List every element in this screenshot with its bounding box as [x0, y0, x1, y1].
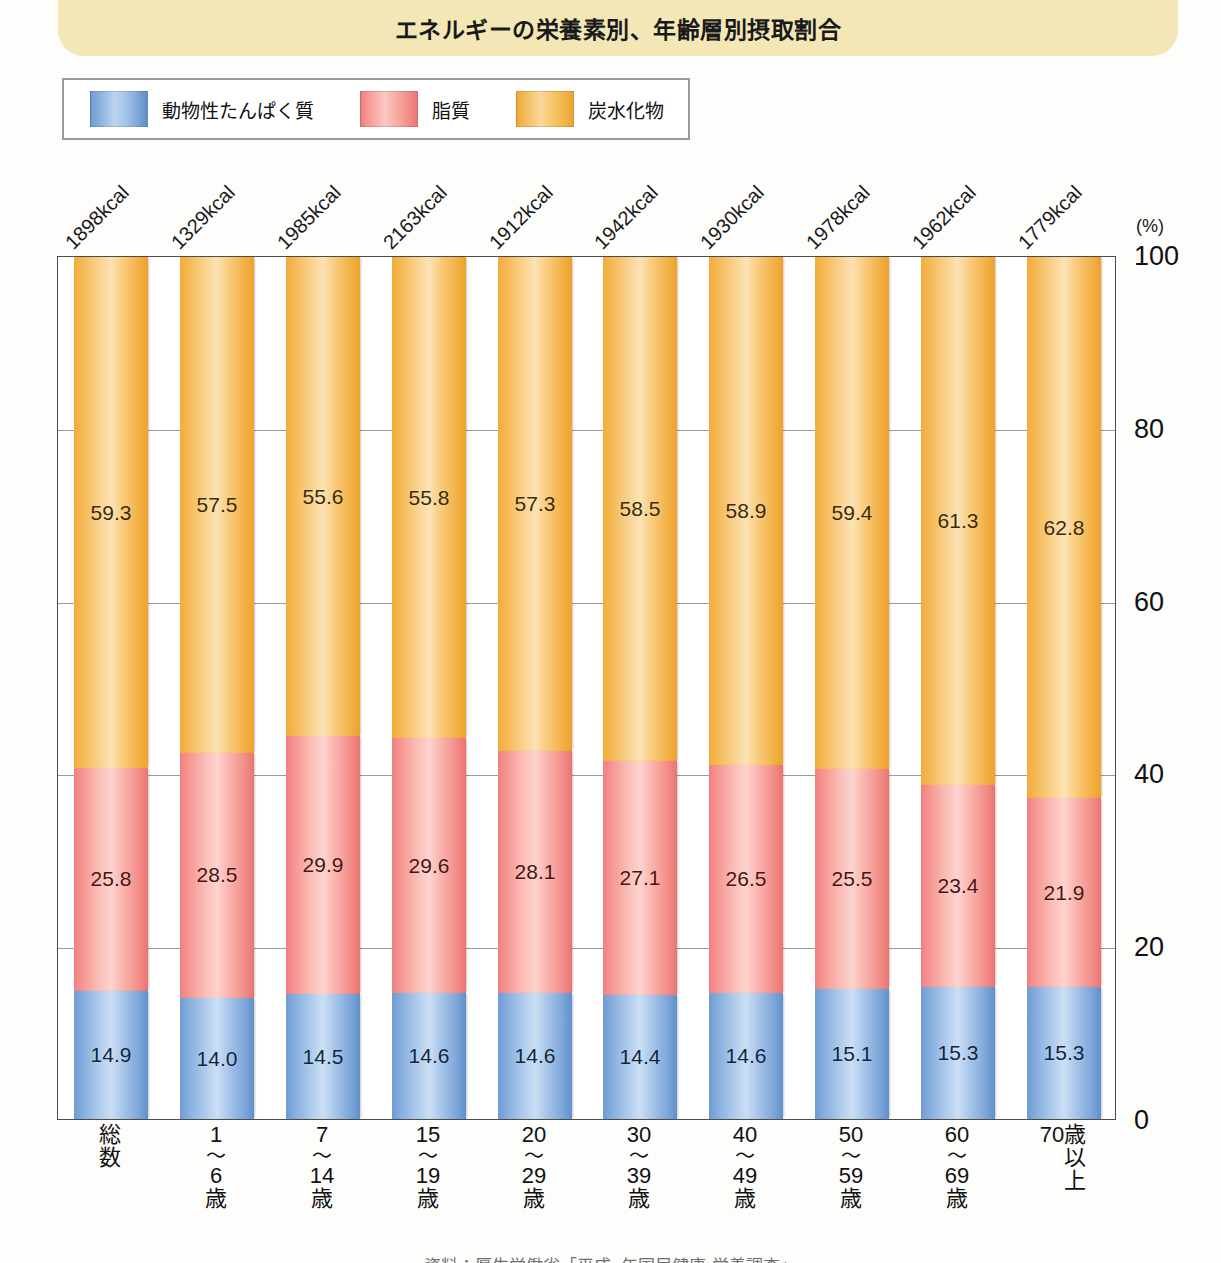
bar-segment-carb[interactable]: 62.8 [1027, 257, 1101, 798]
x-category-line: 29 [522, 1165, 546, 1188]
bar-value-label: 14.4 [620, 1045, 661, 1069]
bar-1〜6歳[interactable]: 57.528.514.0 [180, 257, 254, 1119]
bar-value-label: 57.3 [515, 492, 556, 516]
x-category-line: 30 [627, 1124, 651, 1147]
bar-value-label: 15.3 [1044, 1041, 1085, 1065]
x-category-line: 19 [416, 1165, 440, 1188]
x-category-line: 歳 [311, 1188, 333, 1211]
bar-15〜19歳[interactable]: 55.829.614.6 [392, 257, 466, 1119]
bar-segment-fat[interactable]: 29.6 [392, 738, 466, 993]
bar-20〜29歳[interactable]: 57.328.114.6 [498, 257, 572, 1119]
bar-segment-protein[interactable]: 15.3 [921, 987, 995, 1119]
bar-value-label: 25.5 [832, 867, 873, 891]
bar-segment-carb[interactable]: 61.3 [921, 257, 995, 785]
bar-segment-protein[interactable]: 15.3 [1027, 987, 1101, 1119]
bar-segment-protein[interactable]: 15.1 [815, 989, 889, 1119]
bar-segment-fat[interactable]: 25.5 [815, 769, 889, 989]
x-category-line: 歳 [840, 1188, 862, 1211]
x-axis: 総数1〜6歳7〜14歳15〜19歳20〜29歳30〜39歳40〜49歳50〜59… [0, 1124, 1221, 1242]
x-category-line: 歳 [946, 1188, 968, 1211]
bar-value-label: 14.5 [303, 1045, 344, 1069]
kcal-label-4: 1912kcal [485, 181, 558, 254]
y-tick-40: 40 [1134, 759, 1164, 790]
y-tick-20: 20 [1134, 932, 1164, 963]
bar-segment-protein[interactable]: 14.6 [709, 993, 783, 1119]
bar-segment-protein[interactable]: 14.4 [603, 995, 677, 1119]
kcal-label-7: 1978kcal [802, 181, 875, 254]
bar-value-label: 14.9 [91, 1043, 132, 1067]
x-category-line: 上 [1064, 1170, 1086, 1193]
bar-segment-fat[interactable]: 21.9 [1027, 798, 1101, 987]
bar-segment-protein[interactable]: 14.6 [498, 993, 572, 1119]
bar-segment-carb[interactable]: 58.5 [603, 257, 677, 761]
bars-layer: 59.325.814.957.528.514.055.629.914.555.8… [58, 257, 1115, 1119]
bar-value-label: 15.3 [938, 1041, 979, 1065]
bar-segment-fat[interactable]: 23.4 [921, 785, 995, 987]
x-category-label-9: 70歳以上 [1026, 1124, 1100, 1193]
x-category-column: 70 [1040, 1124, 1064, 1147]
kcal-annotation-row: 1898kcal1329kcal1985kcal2163kcal1912kcal… [0, 150, 1221, 254]
bar-50〜59歳[interactable]: 59.425.515.1 [815, 257, 889, 1119]
bar-segment-protein[interactable]: 14.5 [286, 994, 360, 1119]
x-category-line: 15 [416, 1124, 440, 1147]
kcal-label-8: 1962kcal [908, 181, 981, 254]
x-category-line: 70 [1040, 1124, 1064, 1147]
source-note: 資料：厚生労働省「平成○年国民健康・栄養調査」 [0, 1252, 1221, 1263]
x-category-line: 50 [839, 1124, 863, 1147]
bar-総数[interactable]: 59.325.814.9 [74, 257, 148, 1119]
legend-item-carb[interactable]: 炭水化物 [516, 91, 664, 127]
bar-segment-carb[interactable]: 55.8 [392, 257, 466, 738]
x-category-label-3: 15〜19歳 [391, 1124, 465, 1211]
bar-segment-protein[interactable]: 14.0 [180, 998, 254, 1119]
chart-legend: 動物性たんぱく質脂質炭水化物 [62, 78, 690, 140]
x-category-line: 14 [310, 1165, 334, 1188]
bar-value-label: 29.9 [303, 853, 344, 877]
bar-segment-fat[interactable]: 28.5 [180, 753, 254, 999]
bar-segment-protein[interactable]: 14.6 [392, 993, 466, 1119]
legend-item-protein[interactable]: 動物性たんぱく質 [90, 91, 314, 127]
bar-7〜14歳[interactable]: 55.629.914.5 [286, 257, 360, 1119]
x-category-label-8: 60〜69歳 [920, 1124, 994, 1211]
bar-40〜49歳[interactable]: 58.926.514.6 [709, 257, 783, 1119]
x-category-line: 歳 [417, 1188, 439, 1211]
bar-segment-protein[interactable]: 14.9 [74, 991, 148, 1119]
bar-value-label: 15.1 [832, 1042, 873, 1066]
y-tick-60: 60 [1134, 586, 1164, 617]
bar-value-label: 55.6 [303, 485, 344, 509]
page-title: エネルギーの栄養素別、年齢層別摂取割合 [395, 11, 842, 45]
bar-value-label: 14.0 [197, 1047, 238, 1071]
bar-segment-carb[interactable]: 58.9 [709, 257, 783, 765]
x-category-line: 6 [210, 1165, 222, 1188]
kcal-label-5: 1942kcal [590, 181, 663, 254]
bar-segment-carb[interactable]: 57.3 [498, 257, 572, 751]
bar-70歳以上[interactable]: 62.821.915.3 [1027, 257, 1101, 1119]
legend-swatch-carb-icon [516, 91, 574, 127]
bar-segment-carb[interactable]: 59.3 [74, 257, 148, 768]
y-tick-100: 100 [1134, 241, 1179, 272]
bar-segment-fat[interactable]: 26.5 [709, 765, 783, 993]
bar-segment-carb[interactable]: 59.4 [815, 257, 889, 769]
kcal-label-1: 1329kcal [167, 181, 240, 254]
bar-segment-carb[interactable]: 55.6 [286, 257, 360, 736]
bar-value-label: 14.6 [515, 1044, 556, 1068]
bar-segment-fat[interactable]: 29.9 [286, 736, 360, 994]
x-category-line: 歳 [205, 1188, 227, 1211]
bar-segment-fat[interactable]: 27.1 [603, 761, 677, 995]
bar-segment-carb[interactable]: 57.5 [180, 257, 254, 753]
x-category-line: 59 [839, 1165, 863, 1188]
bar-segment-fat[interactable]: 28.1 [498, 751, 572, 993]
title-banner: エネルギーの栄養素別、年齢層別摂取割合 [58, 0, 1178, 56]
x-category-line: 49 [733, 1165, 757, 1188]
bar-60〜69歳[interactable]: 61.323.415.3 [921, 257, 995, 1119]
bar-30〜39歳[interactable]: 58.527.114.4 [603, 257, 677, 1119]
x-category-line: 歳 [734, 1188, 756, 1211]
bar-value-label: 58.9 [726, 499, 767, 523]
bar-segment-fat[interactable]: 25.8 [74, 768, 148, 990]
bar-value-label: 59.4 [832, 501, 873, 525]
x-category-line: 歳 [1064, 1124, 1086, 1147]
x-category-label-4: 20〜29歳 [497, 1124, 571, 1211]
legend-item-fat[interactable]: 脂質 [360, 91, 470, 127]
legend-swatch-protein-icon [90, 91, 148, 127]
chart-page: エネルギーの栄養素別、年齢層別摂取割合 動物性たんぱく質脂質炭水化物 1898k… [0, 0, 1221, 1263]
x-category-line: 歳 [628, 1188, 650, 1211]
